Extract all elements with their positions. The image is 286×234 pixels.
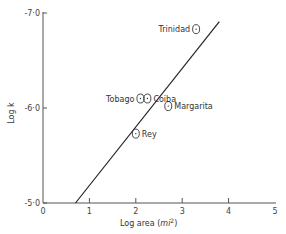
data-points: TrinidadTobagoCoibaMargaritaRey: [105, 25, 213, 139]
point-label: Trinidad: [158, 25, 191, 34]
x-tick-label: 1: [87, 207, 92, 216]
point-label: Coiba: [153, 95, 176, 104]
chart: 012345-5·0-6·0-7·0 TrinidadTobagoCoibaMa…: [0, 0, 286, 234]
point-label: Rey: [142, 130, 157, 139]
x-tick-label: 0: [40, 207, 45, 216]
y-tick-label: -7·0: [24, 9, 40, 18]
data-point-trinidad: Trinidad: [158, 25, 200, 35]
y-axis-title: Log k: [7, 102, 16, 124]
x-tick-label: 2: [133, 207, 138, 216]
regression-line: [75, 22, 219, 203]
y-tick-label: -6·0: [24, 104, 40, 113]
point-label: Margarita: [174, 102, 213, 111]
y-tick-label: -5·0: [24, 199, 40, 208]
data-point-tobago: Tobago: [105, 94, 144, 104]
data-point-rey: Rey: [132, 129, 157, 139]
tick-labels: 012345-5·0-6·0-7·0: [24, 9, 277, 216]
data-point-coiba: Coiba: [144, 94, 176, 104]
x-tick-label: 3: [180, 207, 185, 216]
x-tick-label: 4: [226, 207, 231, 216]
point-label: Tobago: [105, 95, 134, 104]
x-axis-title: Log area (mi2): [120, 217, 177, 228]
x-tick-label: 5: [272, 207, 277, 216]
